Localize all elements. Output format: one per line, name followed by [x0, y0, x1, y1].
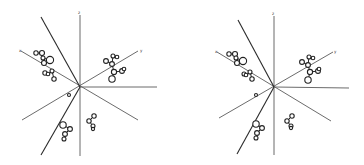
atom-circle: [52, 77, 56, 81]
molecule: [285, 114, 294, 130]
atom-circle: [255, 94, 258, 97]
molecule: [34, 51, 54, 66]
molecule: [60, 122, 73, 141]
atom-circle: [92, 114, 96, 118]
atom-circle: [239, 57, 246, 64]
atom-circle: [40, 51, 45, 56]
atom-circle: [244, 73, 248, 77]
atom-circle: [41, 56, 45, 60]
axis-label-y: y: [334, 49, 337, 54]
atom-circle: [227, 52, 231, 56]
axis-line-steep-a: [238, 20, 274, 87]
stereo-pair-figure: zxy zxy: [0, 0, 364, 165]
atom-circle: [111, 54, 115, 58]
atom-circle: [42, 61, 47, 66]
axis-line-horizontal: [274, 87, 349, 88]
atom-circle: [317, 67, 321, 71]
atom-circle: [253, 121, 259, 127]
molecule: [253, 121, 265, 140]
molecule: [242, 70, 254, 81]
atom-circle: [34, 51, 38, 55]
stereo-panel-left: zxy: [0, 0, 182, 165]
atom-circle: [110, 62, 115, 67]
axis-label-x: x: [215, 49, 218, 54]
atom-circle: [254, 136, 258, 140]
atom-circle: [104, 59, 109, 64]
axis-label-z: z: [272, 11, 274, 16]
atom-circle: [248, 70, 252, 74]
atom-circle: [109, 76, 115, 82]
molecule: [104, 54, 126, 82]
diagram-canvas: zxy: [182, 0, 364, 165]
atom-circle: [306, 63, 311, 68]
atom-circle: [235, 61, 240, 66]
diagram-canvas: zxy: [0, 0, 182, 165]
axis-line-steep-a: [41, 17, 80, 87]
atom-circle: [62, 137, 66, 141]
atom-circle: [290, 114, 294, 118]
molecule: [68, 94, 71, 97]
axis-label-z: z: [78, 10, 80, 15]
atom-circle: [111, 69, 116, 74]
atom-circle: [91, 127, 94, 130]
atom-circle: [68, 94, 71, 97]
atom-circle: [300, 60, 305, 65]
atom-circle: [289, 126, 292, 129]
atom-circle: [46, 56, 53, 63]
axis-label-x: x: [19, 48, 22, 53]
atom-circle: [87, 119, 91, 123]
stereo-panel-right: zxy: [182, 0, 364, 165]
atom-circle: [115, 55, 119, 59]
atom-circle: [46, 72, 50, 76]
molecule: [227, 52, 247, 66]
atom-circle: [307, 69, 312, 74]
atom-circle: [305, 77, 311, 83]
molecule: [43, 69, 56, 81]
atom-circle: [234, 56, 238, 60]
axis-label-y: y: [140, 48, 143, 53]
molecule: [255, 94, 258, 97]
atom-circle: [255, 131, 260, 136]
atom-circle: [68, 127, 73, 132]
atom-circle: [311, 56, 315, 60]
atom-circle: [63, 132, 68, 137]
atom-circle: [122, 67, 126, 71]
atom-circle: [285, 119, 289, 123]
atom-circle: [307, 55, 311, 59]
atom-circle: [260, 126, 265, 131]
atom-circle: [250, 77, 254, 81]
molecule: [87, 114, 96, 131]
atom-circle: [50, 69, 54, 73]
atom-circle: [60, 122, 66, 128]
